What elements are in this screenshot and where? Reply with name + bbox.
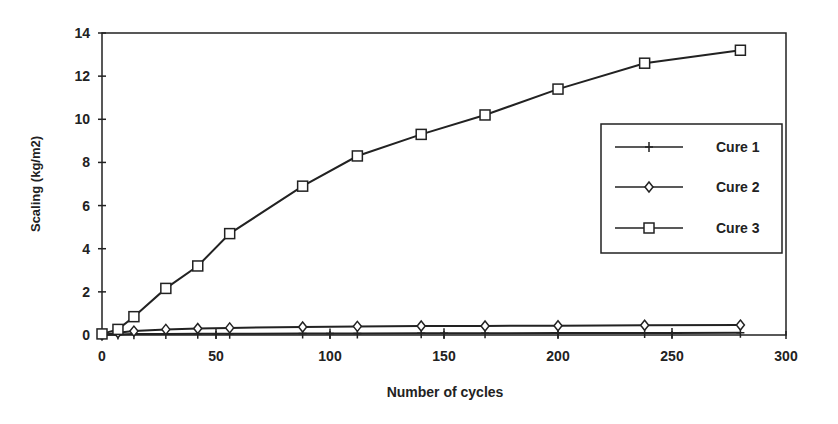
- y-tick-label: 12: [74, 68, 90, 84]
- square-marker-icon: [129, 312, 139, 322]
- x-tick-label: 300: [774, 348, 798, 364]
- square-marker-icon: [644, 223, 654, 233]
- y-tick-label: 2: [82, 284, 90, 300]
- square-marker-icon: [225, 229, 235, 239]
- square-marker-icon: [193, 261, 203, 271]
- x-tick-label: 250: [660, 348, 684, 364]
- square-marker-icon: [298, 181, 308, 191]
- diamond-marker-icon: [353, 321, 361, 331]
- x-tick-label: 100: [318, 348, 342, 364]
- x-tick-label: 150: [432, 348, 456, 364]
- y-tick-label: 6: [82, 198, 90, 214]
- x-tick-label: 50: [208, 348, 224, 364]
- y-tick-label: 10: [74, 111, 90, 127]
- y-tick-label: 0: [82, 327, 90, 343]
- diamond-marker-icon: [417, 321, 425, 331]
- y-axis-title: Scaling (kg/m2): [28, 136, 43, 232]
- diamond-marker-icon: [481, 321, 489, 331]
- square-marker-icon: [640, 58, 650, 68]
- x-tick-label: 200: [546, 348, 570, 364]
- legend-label: Cure 2: [716, 179, 760, 195]
- legend: Cure 1Cure 2Cure 3: [601, 120, 782, 253]
- square-marker-icon: [480, 110, 490, 120]
- x-axis-ticks: 050100150200250300: [98, 331, 798, 364]
- legend-label: Cure 3: [716, 220, 760, 236]
- diamond-marker-icon: [554, 321, 562, 331]
- square-marker-icon: [416, 129, 426, 139]
- square-marker-icon: [352, 151, 362, 161]
- diamond-marker-icon: [736, 320, 744, 330]
- diamond-marker-icon: [226, 323, 234, 333]
- x-axis-title: Number of cycles: [387, 384, 504, 400]
- diamond-marker-icon: [194, 324, 202, 334]
- y-tick-label: 8: [82, 154, 90, 170]
- x-tick-label: 0: [98, 348, 106, 364]
- diamond-marker-icon: [641, 320, 649, 330]
- plus-marker-icon: [326, 328, 334, 338]
- square-marker-icon: [113, 324, 123, 334]
- square-marker-icon: [553, 84, 563, 94]
- y-tick-label: 14: [74, 25, 90, 41]
- plus-marker-icon: [440, 328, 448, 338]
- legend-label: Cure 1: [716, 139, 760, 155]
- scaling-chart: 02468101214 050100150200250300 Scaling (…: [0, 0, 838, 424]
- square-marker-icon: [161, 283, 171, 293]
- square-marker-icon: [97, 329, 107, 339]
- plus-marker-icon: [212, 329, 220, 339]
- plus-marker-icon: [668, 328, 676, 338]
- y-tick-label: 4: [82, 241, 90, 257]
- diamond-marker-icon: [299, 322, 307, 332]
- square-marker-icon: [735, 45, 745, 55]
